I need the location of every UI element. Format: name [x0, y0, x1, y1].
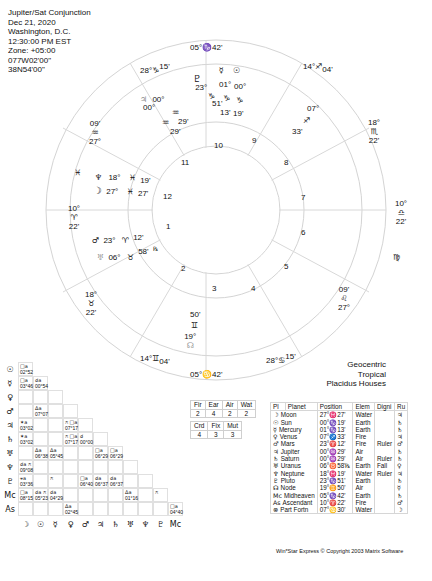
aspect-row-label: ♃ — [4, 421, 16, 430]
aspect-col-label: ♂ — [78, 520, 93, 529]
planet-glyph-icon: ♇ — [273, 477, 279, 484]
planet-position: 23°♈12' — [317, 440, 353, 447]
planet-element: Water — [353, 506, 375, 514]
aspect-row-label: ☿ — [4, 379, 16, 388]
planet-position: 19°♊50' — [317, 484, 353, 491]
table-row: ♀Venus07°♐33'Fire♃ — [271, 433, 408, 440]
planet-glyph-icon: As — [273, 499, 281, 506]
planet-position: 00°♒29' — [317, 455, 353, 462]
house-number-7: 7 — [301, 193, 305, 202]
planet-glyph-icon: ☊ — [273, 484, 279, 491]
aspect-cell — [48, 432, 63, 446]
aspect-row-label: As — [4, 505, 16, 514]
planet-glyph-icon: ♃ — [273, 448, 279, 455]
cusp-2: 18°♉22' — [84, 290, 98, 317]
planet-saturn-deg: 00° — [143, 103, 155, 112]
planet-name: Pluto — [281, 477, 295, 484]
house-number-12: 12 — [163, 192, 172, 201]
aspect-col-label: ♇ — [153, 520, 168, 529]
planet-dignity — [375, 506, 395, 514]
venus-sign-icon: ♐ — [303, 116, 310, 125]
cusp-11: 28°♑15' — [140, 66, 170, 75]
aspect-cell — [63, 404, 78, 418]
planet-element: Earth — [353, 419, 375, 426]
planet-dignity: Ruler — [375, 455, 395, 462]
table-row: McMidheaven05°♑42'Earth♄ — [271, 492, 408, 499]
table-row: ♆Neptune18°♓19'WaterRuler♃ — [271, 470, 408, 477]
planet-element: Water — [353, 470, 375, 477]
copyright-footer: Win*Star Express © Copyright 2003 Matrix… — [276, 548, 403, 554]
planet-dignity: Fall — [375, 462, 395, 469]
planet-dignity: Ruler — [375, 440, 395, 447]
aspect-entry: □a02°52 — [20, 363, 33, 375]
planet-glyph-icon: ♀ — [273, 433, 278, 440]
sun-deg: 00° — [234, 82, 246, 91]
chart-system-info: Geocentric Tropical Placidus Houses — [326, 360, 386, 389]
aspect-row-label: ♆ — [4, 463, 16, 472]
planet-dignity — [375, 419, 395, 426]
aspect-entry: ⚻ □a07°17 — [65, 419, 78, 431]
aspect-cell — [78, 502, 93, 516]
aspect-entry: □a03°46 — [20, 377, 33, 389]
aspect-cell — [93, 432, 108, 446]
table-row: ⊗Part Fortn07°♋30'Water☽ — [271, 506, 408, 514]
venus-deg: 07° — [307, 104, 319, 113]
table-row: ♂Mars23°♈12'FireRuler♂ — [271, 440, 408, 447]
planet-position: 27°♓27' — [317, 411, 353, 419]
planet-name: Midheaven — [284, 492, 315, 499]
aspect-cell — [63, 460, 78, 474]
aspect-entry: □a06°29 — [95, 447, 108, 459]
aspect-entry: □a06°29 — [110, 447, 123, 459]
house-number-2: 2 — [181, 264, 185, 273]
node-icon: ☊ — [180, 341, 200, 350]
aspect-entry: Δa01°16 — [125, 489, 138, 501]
aspect-entry: Δa07°07 — [35, 405, 48, 417]
sun-min: 19' — [233, 109, 243, 118]
aspect-row-label: Mc — [4, 491, 16, 500]
aspect-cell — [78, 418, 93, 432]
mars-icon: ♂ — [92, 236, 99, 245]
table-header: Pl Planet Position Elem Digni Ru — [271, 403, 408, 411]
aspect-cell — [138, 474, 153, 488]
aspect-row-label: ♂ — [4, 407, 16, 416]
planet-position: 01°♑13' — [317, 426, 353, 433]
planet-glyph-icon: ☿ — [273, 426, 277, 433]
planet-dignity — [375, 484, 395, 491]
planet-ruler: ♄ — [395, 492, 408, 499]
pluto-icon: ♇ — [172, 74, 222, 83]
planet-ruler: ♄ — [395, 448, 408, 455]
aspect-col-label: ☉ — [33, 520, 48, 529]
planet-element: Earth — [353, 426, 375, 433]
aspect-entry: ☌a06°37 — [110, 475, 123, 487]
aspect-cell — [138, 502, 153, 516]
aspect-cell — [18, 390, 33, 404]
planet-glyph-icon: Mc — [273, 492, 282, 499]
aspect-cell — [123, 502, 138, 516]
aspect-entry: ⚻ □a07°17 — [65, 433, 78, 445]
aspect-col-label: ☽ — [18, 520, 33, 529]
table-row: ☽Moon27°♓27'Water♃ — [271, 411, 408, 419]
planet-name: Sun — [281, 419, 292, 426]
aspect-cell — [48, 502, 63, 516]
planet-glyph-icon: ♆ — [273, 470, 279, 477]
planet-dignity: Ruler — [375, 470, 395, 477]
aspect-entry: ✶a03°02 — [20, 419, 33, 431]
planet-dignity — [375, 411, 395, 419]
planet-ruler: ♃ — [395, 411, 408, 419]
aspect-entry: ☌a06°37 — [95, 475, 108, 487]
aspect-cell — [138, 488, 153, 502]
planet-dignity — [375, 448, 395, 455]
planet-name: Part Fortn — [280, 506, 308, 513]
aspect-entry: ⚻ — [50, 475, 53, 481]
aspect-entry: ⚻ — [155, 489, 158, 495]
aspect-cell — [18, 446, 33, 460]
planet-position: 06°♉58'℞ — [317, 462, 353, 469]
aspect-cell — [123, 474, 138, 488]
planet-ruler: ☿ — [395, 484, 408, 491]
house-number-6: 6 — [301, 228, 305, 237]
house-number-11: 11 — [181, 158, 189, 167]
aspect-entry: □a08°15 — [20, 489, 33, 501]
saturn-sign-icon: ♒ — [162, 118, 169, 127]
planet-pluto: ♇ 23° ♑ 51' — [172, 74, 222, 108]
planet-glyph-icon: ♄ — [273, 455, 279, 462]
